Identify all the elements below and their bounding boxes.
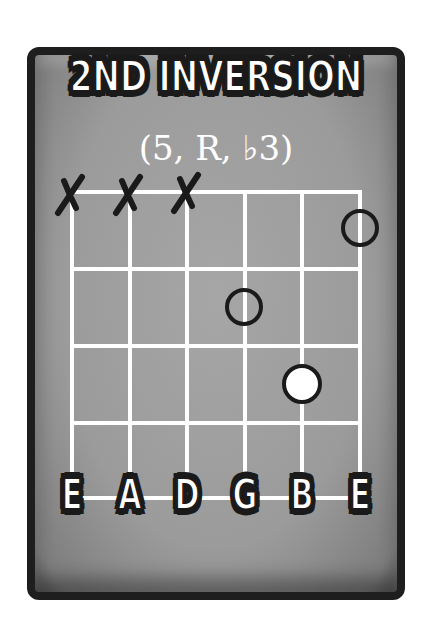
string-label-b: B [286,474,318,516]
string-label-g: G [229,474,261,516]
filled-marker-b-fret-3 [284,366,320,402]
string-label-low-e: E [56,474,88,516]
string-label-high-e: E [344,474,376,516]
string-labels: E A D G B E [0,474,427,534]
fret-grid [72,192,360,498]
string-label-d: D [171,474,203,516]
string-label-a: A [114,474,146,516]
